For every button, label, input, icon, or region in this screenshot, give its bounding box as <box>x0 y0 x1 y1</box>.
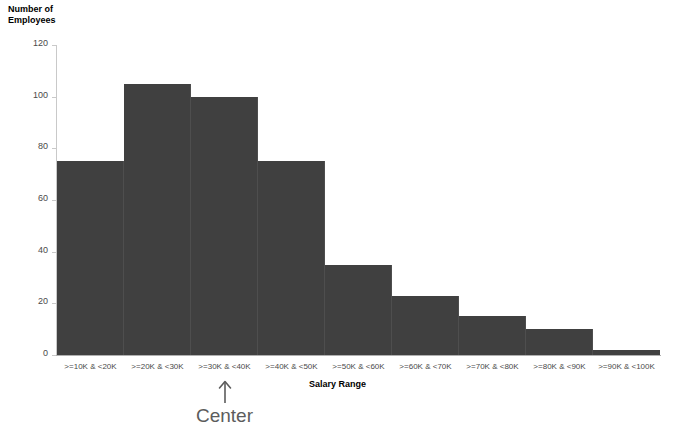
y-axis-tick: 80 <box>0 148 56 149</box>
y-axis-tick-label: 20 <box>38 296 48 307</box>
bar[interactable] <box>57 161 124 355</box>
x-axis-tick-label: >=90K & <100K <box>593 362 660 372</box>
y-axis-tick: 120 <box>0 45 56 46</box>
y-axis-tick: 20 <box>0 303 56 304</box>
bar[interactable] <box>593 350 660 355</box>
bar[interactable] <box>526 329 593 355</box>
y-axis-tick-label: 80 <box>38 141 48 152</box>
y-axis-tick: 100 <box>0 97 56 98</box>
bar[interactable] <box>191 97 258 355</box>
plot-area <box>57 45 660 355</box>
y-axis-tick-mark <box>52 97 56 98</box>
y-axis-tick-mark <box>52 148 56 149</box>
y-axis-title: Number of Employees <box>8 4 56 26</box>
x-axis-line <box>56 355 661 356</box>
bar[interactable] <box>459 316 526 355</box>
y-axis-tick-label: 0 <box>43 348 48 359</box>
y-axis-tick-mark <box>52 200 56 201</box>
y-axis-tick: 60 <box>0 200 56 201</box>
bar[interactable] <box>124 84 191 355</box>
y-axis-tick-mark <box>52 45 56 46</box>
x-axis-tick-label: >=60K & <70K <box>392 362 459 372</box>
x-axis-title: Salary Range <box>0 379 675 389</box>
bar[interactable] <box>258 161 325 355</box>
bar[interactable] <box>392 296 459 355</box>
y-axis-tick: 40 <box>0 252 56 253</box>
x-axis-tick-label: >=10K & <20K <box>57 362 124 372</box>
y-axis-tick-label: 60 <box>38 193 48 204</box>
x-axis-tick-label: >=20K & <30K <box>124 362 191 372</box>
center-annotation-label: Center <box>165 405 285 427</box>
y-axis-tick-mark <box>52 303 56 304</box>
y-axis-tick-label: 40 <box>38 245 48 256</box>
x-axis-tick-label: >=80K & <90K <box>526 362 593 372</box>
y-axis-tick: 0 <box>0 355 56 356</box>
y-axis-tick-mark <box>52 355 56 356</box>
x-axis-tick-label: >=30K & <40K <box>191 362 258 372</box>
y-axis-tick-label: 120 <box>33 38 48 49</box>
x-axis-tick-label: >=50K & <60K <box>325 362 392 372</box>
y-axis-tick-mark <box>52 252 56 253</box>
x-axis-tick-label: >=40K & <50K <box>258 362 325 372</box>
y-axis-tick-label: 100 <box>33 90 48 101</box>
center-annotation: Center <box>165 378 285 427</box>
x-axis-tick-label: >=70K & <80K <box>459 362 526 372</box>
bar[interactable] <box>325 265 392 355</box>
arrow-up-icon <box>216 378 234 404</box>
